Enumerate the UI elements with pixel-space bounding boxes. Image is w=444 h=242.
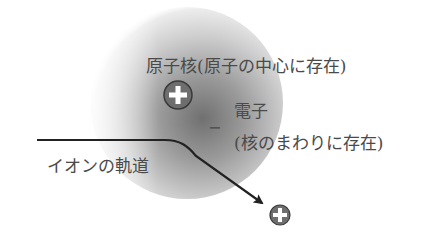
ion-icon [270,205,290,225]
nucleus-icon [164,81,192,109]
electron-symbol: − [208,118,221,137]
trajectory-label: イオンの軌道 [47,156,149,176]
electron-label: 電子 [234,101,268,121]
electron-sublabel: (核のまわりに存在) [234,133,383,153]
atom-scattering-diagram: − 原子核(原子の中心に存在) 電子 (核のまわりに存在) イオンの軌道 [0,0,444,242]
nucleus-label: 原子核(原子の中心に存在) [146,56,346,76]
